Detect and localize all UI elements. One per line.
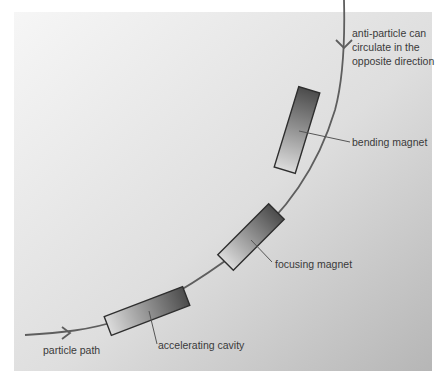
accelerating-cavity-label: accelerating cavity	[158, 339, 245, 351]
anti-particle-label-line-1: anti-particle can	[352, 27, 426, 39]
accelerator-diagram: anti-particle can circulate in the oppos…	[0, 0, 442, 379]
particle-path-label: particle path	[43, 344, 100, 356]
bending-magnet-label: bending magnet	[352, 136, 427, 148]
anti-particle-label-line-2: circulate in the	[352, 41, 420, 53]
anti-particle-label-line-3: opposite direction	[352, 55, 434, 67]
focusing-magnet-label: focusing magnet	[275, 258, 352, 270]
